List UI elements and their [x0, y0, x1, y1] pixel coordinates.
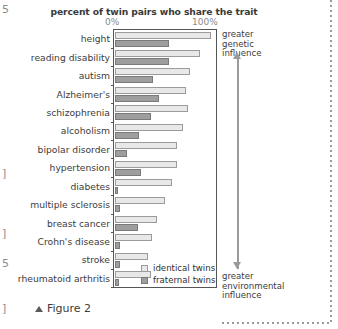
category-label-rheumatoid-arthritis: rheumatoid arthritis	[18, 273, 110, 284]
arrow-down-icon	[233, 262, 241, 269]
bar-fraternal-twins	[115, 242, 120, 249]
annotation-top-line3: influence	[222, 49, 261, 59]
bar-fraternal-twins	[115, 40, 169, 47]
category-label-crohn-s-disease: Crohn's disease	[38, 236, 110, 247]
chart-row	[114, 177, 218, 195]
bar-identical-twins	[115, 142, 177, 149]
bar-fraternal-twins	[115, 113, 151, 120]
bar-fraternal-twins	[115, 76, 153, 83]
legend-item-fraternal-twins: fraternal twins	[141, 274, 215, 286]
category-label-bipolar-disorder: bipolar disorder	[38, 144, 110, 155]
bar-identical-twins	[115, 32, 211, 39]
bar-fraternal-twins	[115, 224, 138, 231]
bar-identical-twins	[115, 197, 165, 204]
chart-row	[114, 30, 218, 48]
chart-row	[114, 233, 218, 251]
arrow-shaft	[237, 58, 239, 269]
page-dotted-rule-vertical	[330, 0, 332, 322]
chart-row	[114, 159, 218, 177]
bar-identical-twins	[115, 124, 183, 131]
x-axis-tick-min: 0%	[105, 17, 119, 27]
x-axis-tick-max: 100%	[192, 17, 218, 27]
page-edge-mark: ]	[2, 303, 6, 314]
legend-swatch-icon-fraternal	[141, 277, 148, 284]
category-label-stroke: stroke	[82, 254, 110, 265]
chart-row	[114, 122, 218, 140]
page-dotted-rule-horizontal	[222, 322, 332, 324]
bar-fraternal-twins	[115, 150, 127, 157]
page-edge-mark: ]	[2, 168, 6, 179]
bar-fraternal-twins	[115, 205, 120, 212]
annotation-greater-genetic-influence: greater genetic influence	[222, 30, 261, 59]
category-label-alcoholism: alcoholism	[61, 125, 110, 136]
category-label-multiple-sclerosis: multiple sclerosis	[30, 199, 110, 210]
annotation-bottom-line3: influence	[222, 291, 284, 301]
triangle-up-icon	[35, 306, 43, 312]
chart-row	[114, 48, 218, 66]
category-label-schizophrenia: schizophrenia	[46, 107, 110, 118]
bar-fraternal-twins	[115, 279, 119, 286]
legend-swatch-icon-identical	[141, 265, 148, 272]
chart-row	[114, 104, 218, 122]
chart-title: percent of twin pairs who share the trai…	[14, 6, 294, 17]
bar-identical-twins	[115, 87, 186, 94]
category-label-height: height	[81, 33, 110, 44]
bar-identical-twins	[115, 216, 157, 223]
bar-identical-twins	[115, 105, 188, 112]
bar-identical-twins	[115, 253, 148, 260]
y-axis-tick	[111, 287, 114, 288]
bar-identical-twins	[115, 50, 200, 57]
category-label-autism: autism	[79, 70, 110, 81]
category-label-hypertension: hypertension	[50, 162, 110, 173]
chart-row	[114, 85, 218, 103]
bar-identical-twins	[115, 68, 190, 75]
bar-fraternal-twins	[115, 187, 118, 194]
figure-caption: Figure 2	[35, 302, 91, 315]
chart-legend: identical twins fraternal twins	[141, 262, 215, 286]
bar-fraternal-twins	[115, 261, 120, 268]
bar-fraternal-twins	[115, 95, 159, 102]
chart-row	[114, 141, 218, 159]
chart-row	[114, 214, 218, 232]
category-label-alzheimer-s: Alzheimer's	[57, 89, 110, 100]
page-edge-mark: ]	[2, 228, 6, 239]
chart-plot-area	[113, 30, 217, 288]
figure-caption-text: Figure 2	[47, 302, 91, 315]
category-label-diabetes: diabetes	[70, 181, 110, 192]
chart-row	[114, 196, 218, 214]
legend-label-fraternal: fraternal twins	[153, 275, 215, 285]
bar-identical-twins	[115, 179, 172, 186]
page-edge-mark: 5	[2, 258, 9, 269]
legend-label-identical: identical twins	[153, 263, 215, 273]
figure-page: 5 ] ] 5 ] percent of twin pairs who shar…	[0, 0, 338, 329]
bar-identical-twins	[115, 234, 152, 241]
legend-item-identical-twins: identical twins	[141, 262, 215, 274]
bar-fraternal-twins	[115, 132, 139, 139]
category-label-breast-cancer: breast cancer	[47, 218, 110, 229]
bar-fraternal-twins	[115, 58, 169, 65]
chart-row	[114, 67, 218, 85]
bar-identical-twins	[115, 161, 177, 168]
bar-fraternal-twins	[115, 169, 141, 176]
page-edge-mark: 5	[2, 4, 9, 15]
category-label-reading-disability: reading disability	[31, 52, 110, 63]
annotation-greater-environmental-influence: greater environmental influence	[222, 272, 284, 301]
